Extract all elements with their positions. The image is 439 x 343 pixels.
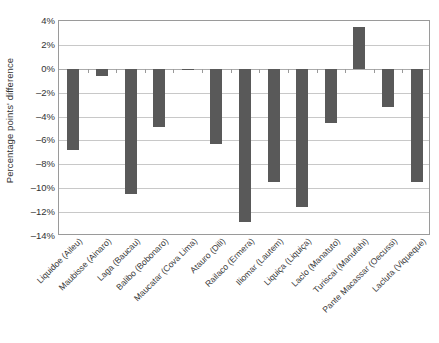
bar	[325, 69, 337, 123]
x-axis-tickmark	[374, 69, 375, 73]
y-axis-title: Percentage points' difference	[0, 0, 20, 240]
y-axis-title-text: Percentage points' difference	[5, 57, 16, 182]
y-axis-tick-label: –2%	[36, 86, 55, 97]
bar-chart: Percentage points' difference 4%2%0%–2%–…	[0, 0, 439, 343]
bar	[296, 69, 308, 208]
x-axis-tickmark	[345, 69, 346, 73]
y-axis-tick-label: –10%	[31, 182, 55, 193]
bar	[67, 69, 79, 150]
bar	[96, 69, 108, 76]
y-axis-tick-label: –4%	[36, 110, 55, 121]
x-axis-tickmark	[116, 69, 117, 73]
x-axis-tick-label: Lacluta (Viqueque)	[370, 236, 428, 294]
bar	[382, 69, 394, 107]
x-axis-tickmark	[173, 69, 174, 73]
x-axis-tickmark	[288, 69, 289, 73]
bar	[153, 69, 165, 128]
x-axis-tick-label: Balibo (Bobonaro)	[114, 236, 170, 292]
bar	[268, 69, 280, 182]
y-axis-tick-label: 4%	[41, 15, 55, 26]
x-axis-tickmark	[231, 69, 232, 73]
x-axis-tickmark	[202, 69, 203, 73]
x-axis-tickmark	[88, 69, 89, 73]
y-axis-tick-label: –6%	[36, 134, 55, 145]
x-axis-tick-labels: Liquidoe (Aileu)Maubisse (Ainaro)Laga (B…	[58, 236, 430, 343]
bar	[125, 69, 137, 194]
y-axis-tick-label: 0%	[41, 62, 55, 73]
y-axis-tick-labels: 4%2%0%–2%–4%–6%–8%–10%–12%–14%	[18, 20, 58, 235]
x-axis-tickmark	[259, 69, 260, 73]
bar	[353, 27, 365, 69]
y-axis-tick-label: –8%	[36, 158, 55, 169]
y-axis-tick-label: 2%	[41, 38, 55, 49]
x-axis-tick-label: Maubisse (Ainaro)	[57, 236, 113, 292]
bar	[411, 69, 423, 182]
x-axis-tickmark	[317, 69, 318, 73]
x-axis-tickmark	[145, 69, 146, 73]
y-axis-tick-label: –12%	[31, 206, 55, 217]
x-axis-tickmark	[402, 69, 403, 73]
y-axis-tick-label: –14%	[31, 230, 55, 241]
bar	[182, 69, 194, 71]
bar	[210, 69, 222, 144]
